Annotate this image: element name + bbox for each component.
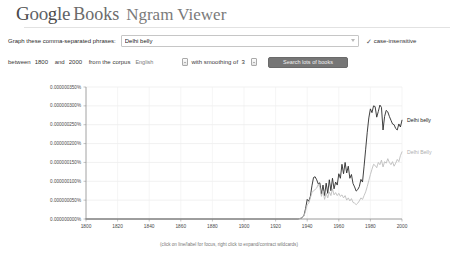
phrases-label: Graph these comma-separated phrases: (8, 38, 116, 44)
case-insensitive-label: case-insensitive (374, 38, 417, 44)
smoothing-stepper-icon[interactable] (251, 58, 257, 66)
x-tick-label: 1920 (270, 224, 281, 229)
y-tick-label: 0.000000050% (50, 198, 81, 203)
query-form: Graph these comma-separated phrases: ✓ c… (0, 32, 458, 71)
google-wordmark: Google (16, 3, 70, 24)
x-tick-label: 1820 (112, 224, 123, 229)
options-row: between and from the corpus English with… (8, 53, 450, 71)
header-divider (24, 27, 450, 28)
chart-legend[interactable]: Delhi bellyDelhi Belly (407, 117, 432, 155)
case-insensitive-toggle[interactable]: ✓ case-insensitive (366, 38, 417, 45)
y-axis-tick-labels: 0.000000000%0.000000050%0.000000100%0.00… (50, 85, 81, 222)
chart-canvas[interactable]: 0.000000000%0.000000050%0.000000100%0.00… (0, 79, 458, 249)
between-label: between (8, 59, 31, 65)
year-start-input[interactable] (35, 59, 51, 65)
x-tick-label: 1800 (81, 224, 92, 229)
logo-letter-o2: o (39, 3, 48, 24)
x-tick-label: 1960 (333, 224, 344, 229)
y-tick-label: 0.000000300% (50, 103, 81, 108)
logo-letter-g: g (48, 3, 57, 24)
books-label: Books (73, 4, 119, 24)
smoothing-input[interactable] (238, 59, 248, 65)
y-tick-label: 0.000000200% (50, 141, 81, 146)
x-tick-label: 1940 (302, 224, 313, 229)
y-tick-label: 0.000000350% (50, 85, 81, 90)
phrases-input-wrapper (121, 35, 359, 47)
checkmark-icon: ✓ (366, 38, 372, 45)
phrases-row: Graph these comma-separated phrases: ✓ c… (8, 32, 450, 50)
chart-gridlines (86, 87, 402, 219)
logo-letter-e: e (62, 3, 70, 24)
search-button[interactable]: Search lots of books (268, 57, 348, 68)
x-tick-label: 2000 (397, 224, 408, 229)
y-tick-label: 0.000000250% (50, 122, 81, 127)
and-label: and (55, 59, 65, 65)
x-tick-label: 1840 (144, 224, 155, 229)
chevron-down-icon[interactable] (351, 39, 355, 42)
x-tick-label: 1880 (207, 224, 218, 229)
x-tick-label: 1900 (239, 224, 250, 229)
corpus-stepper-icon[interactable] (182, 58, 188, 66)
corpus-label: from the corpus (89, 59, 131, 65)
chart-caption: (click on line/label for focus, right cl… (0, 242, 458, 247)
chart-axes (84, 87, 403, 222)
y-tick-label: 0.000000000% (50, 217, 81, 222)
series-label[interactable]: Delhi belly (407, 117, 431, 123)
x-tick-label: 1860 (175, 224, 186, 229)
year-end-input[interactable] (69, 59, 85, 65)
product-title: Ngram Viewer (126, 5, 226, 24)
x-tick-label: 1980 (365, 224, 376, 229)
x-axis-tick-labels: 1800182018401860188019001920194019601980… (81, 224, 408, 229)
corpus-select[interactable]: English (135, 59, 179, 65)
ngram-chart[interactable]: 0.000000000%0.000000050%0.000000100%0.00… (0, 79, 458, 254)
brand-logo[interactable]: GoogleBooksNgram Viewer (16, 4, 458, 23)
y-tick-label: 0.000000100% (50, 179, 81, 184)
series-label[interactable]: Delhi Belly (407, 149, 432, 155)
phrases-input[interactable] (121, 35, 359, 47)
page-header: GoogleBooksNgram Viewer (0, 0, 458, 28)
smoothing-label: with smoothing of (191, 59, 238, 65)
logo-letter-o1: o (29, 3, 38, 24)
y-tick-label: 0.000000150% (50, 160, 81, 165)
logo-letter-G: G (16, 3, 29, 24)
